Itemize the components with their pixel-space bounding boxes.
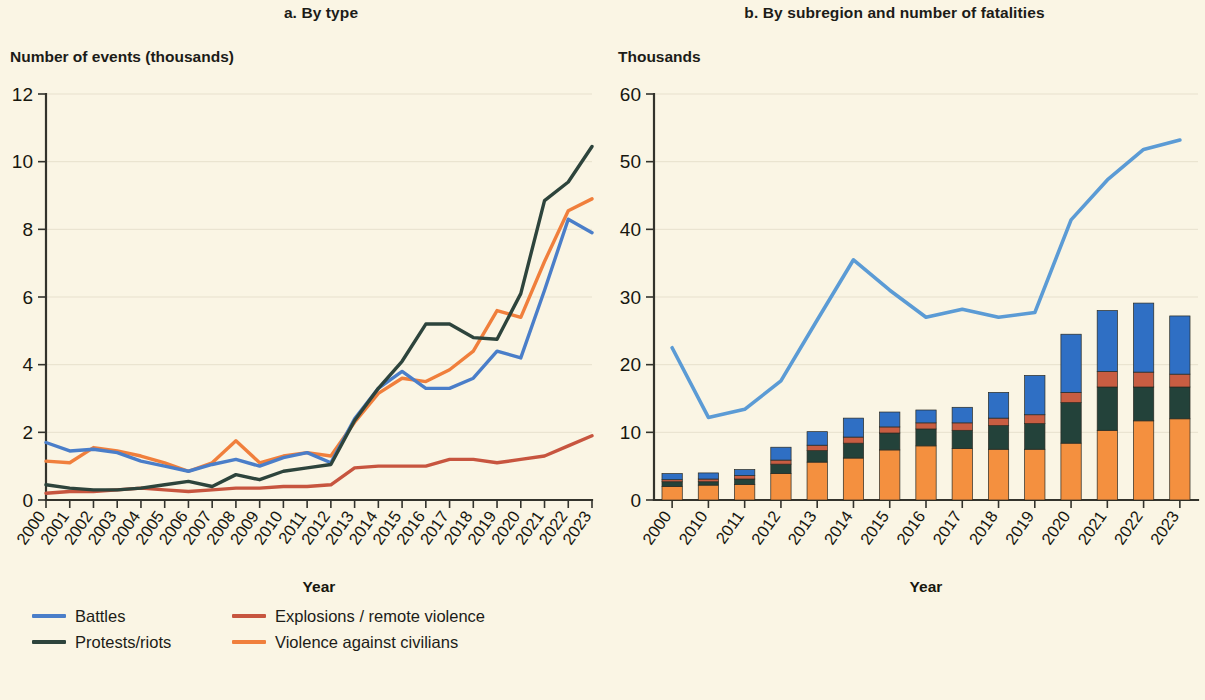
panel-a-legend: BattlesExplosions / remote violenceProte… (32, 608, 485, 650)
panel-b-bar-segment (807, 451, 827, 463)
panel-b-bar-segment (1097, 387, 1117, 430)
panel-b-bar-segment (1170, 387, 1190, 419)
panel-b-bar-segment (880, 433, 900, 450)
panel-b-bar-segment (1061, 443, 1081, 500)
panel-b-bar-segment (1097, 371, 1117, 387)
panel-b-plot: 0102030405060200020102011201220132014201… (602, 0, 1205, 700)
panel-a-ytick-label: 12 (12, 84, 33, 105)
panel-b-bar-segment (1133, 387, 1153, 421)
panel-b-bar-segment (916, 423, 936, 429)
legend-line-swatch-icon (32, 614, 66, 618)
panel-b-bar-segment (771, 464, 791, 473)
legend-line-swatch-icon (32, 640, 66, 644)
panel-b-bar-segment (916, 410, 936, 423)
panel-b-bar-segment (807, 432, 827, 446)
panel-b-bar-segment (880, 412, 900, 427)
panel-a-ytick-label: 0 (22, 490, 33, 511)
panel-b-ytick-label: 40 (620, 219, 641, 240)
panel-b-bar-segment (1170, 419, 1190, 500)
panel-b-bar-segment (988, 426, 1008, 450)
panel-b-xtick-label: 2010 (675, 507, 711, 547)
panel-b-bar-segment (843, 458, 863, 500)
panel-b-bar-segment (698, 482, 718, 485)
legend-line-swatch-icon (232, 640, 266, 644)
panel-b-bar-segment (1170, 374, 1190, 387)
panel-b-xtick-label: 2012 (748, 507, 784, 547)
panel-b-xtick-label: 2011 (712, 507, 747, 546)
panel-b-ytick-label: 60 (620, 84, 641, 105)
panel-b-bar-segment (771, 447, 791, 460)
panel-b-bar-segment (807, 445, 827, 450)
panel-b-ytick-label: 0 (630, 490, 641, 511)
legend-item-label: Battles (75, 608, 125, 625)
panel-b-bar-segment (1133, 303, 1153, 372)
panel-b-xtick-label: 2014 (820, 507, 856, 547)
panel-b-bar-segment (916, 446, 936, 500)
panel-b-xtick-label: 2021 (1074, 507, 1110, 547)
panel-a-ytick-label: 10 (12, 151, 33, 172)
panel-b-bar-segment (662, 474, 682, 480)
panel-b-xtick-label: 2016 (893, 507, 929, 547)
panel-b-bar-segment (735, 470, 755, 476)
panel-b-bar-segment (1025, 449, 1045, 500)
panel-b-bar-segment (807, 462, 827, 500)
legend-a-item[interactable]: Explosions / remote violence (232, 608, 485, 625)
panel-a-by-type: a. By type Number of events (thousands) … (0, 0, 602, 700)
panel-b-ytick-label: 20 (620, 354, 641, 375)
panel-a-ytick-label: 4 (22, 354, 33, 375)
panel-b-bar-segment (735, 484, 755, 500)
panel-a-series-line (46, 199, 592, 471)
panel-b-ytick-label: 50 (620, 151, 641, 172)
panel-a-ytick-label: 6 (22, 287, 33, 308)
panel-b-bar-segment (916, 429, 936, 446)
panel-b-bar-segment (988, 418, 1008, 425)
panel-b-bar-segment (843, 443, 863, 458)
panel-a-ytick-label: 2 (22, 422, 33, 443)
panel-b-bar-segment (1097, 311, 1117, 372)
panel-b-xtick-label: 2018 (965, 507, 1001, 547)
panel-b-ytick-label: 30 (620, 287, 641, 308)
panel-b-xaxis-title: Year (910, 578, 943, 595)
panel-b-bar-segment (662, 482, 682, 487)
legend-a-item[interactable]: Battles (32, 608, 232, 625)
panel-b-ytick-label: 10 (620, 422, 641, 443)
panel-b-bar-segment (1061, 403, 1081, 444)
panel-b-bar-segment (735, 479, 755, 484)
panel-b-xtick-label: 2017 (929, 507, 965, 547)
panel-b-xtick-label: 2013 (784, 507, 820, 547)
panel-a-ytick-label: 8 (22, 219, 33, 240)
panel-a-xaxis-title: Year (303, 578, 336, 595)
legend-a-item[interactable]: Violence against civilians (232, 634, 485, 651)
panel-a-series-line (46, 146, 592, 489)
panel-b-by-subregion: b. By subregion and number of fatalities… (602, 0, 1205, 700)
panel-b-bar-segment (1061, 334, 1081, 392)
panel-b-xtick-label: 2023 (1147, 507, 1183, 547)
panel-b-bar-segment (1061, 392, 1081, 402)
legend-line-swatch-icon (232, 614, 266, 618)
panel-b-xtick-label: 2019 (1001, 507, 1037, 547)
panel-b-bar-segment (1133, 372, 1153, 387)
panel-b-bar-segment (698, 473, 718, 479)
panel-b-xtick-label: 2015 (856, 507, 892, 547)
panel-b-bar-segment (843, 418, 863, 437)
panel-b-bar-segment (1133, 421, 1153, 500)
panel-b-bar-segment (1097, 430, 1117, 500)
panel-b-bar-segment (952, 423, 972, 430)
panel-b-bar-segment (771, 474, 791, 500)
panel-a-plot: 0246810122000200120022003200420052006200… (0, 0, 602, 700)
panel-b-bar-segment (1025, 415, 1045, 424)
figure-root: a. By type Number of events (thousands) … (0, 0, 1205, 700)
panel-b-bar-segment (662, 486, 682, 500)
panel-a-series-line (46, 219, 592, 471)
legend-a-item[interactable]: Protests/riots (32, 634, 232, 651)
panel-b-xtick-label: 2020 (1038, 507, 1074, 547)
panel-b-bar-segment (1025, 424, 1045, 450)
panel-b-bar-segment (771, 460, 791, 464)
panel-b-bar-segment (988, 449, 1008, 500)
panel-b-xtick-label: 2022 (1110, 507, 1146, 547)
panel-b-bar-segment (952, 449, 972, 500)
legend-item-label: Explosions / remote violence (275, 608, 485, 625)
panel-b-bar-segment (698, 485, 718, 500)
panel-b-bar-segment (735, 476, 755, 479)
panel-b-bar-segment (1025, 375, 1045, 414)
